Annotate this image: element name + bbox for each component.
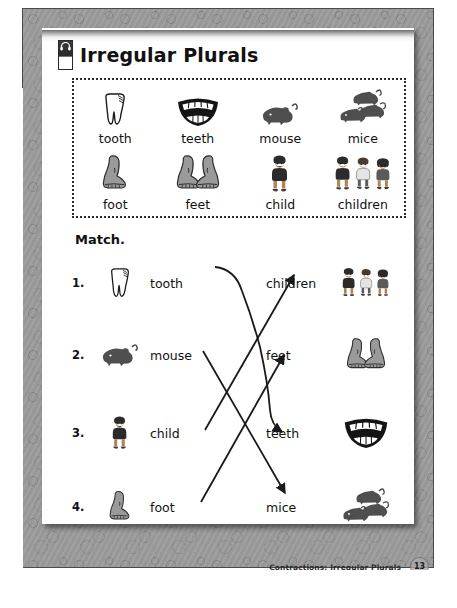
match-right-word[interactable]: mice [266, 500, 326, 515]
match-exercise: 1. tooth children [72, 255, 406, 520]
word-bank-label: tooth [99, 131, 132, 146]
teeth-icon [326, 416, 406, 450]
teeth-icon [176, 88, 220, 128]
match-right-word[interactable]: feet [266, 348, 326, 363]
instruction-label: Match. [75, 232, 125, 247]
mouse-icon [259, 88, 301, 128]
child-icon [268, 154, 292, 194]
worksheet-page: Irregular Plurals tooth [0, 0, 457, 608]
match-left-word[interactable]: mouse [146, 348, 212, 363]
tooth-icon [94, 267, 146, 300]
item-number: 1. [72, 276, 94, 290]
word-bank-label: feet [185, 197, 210, 212]
match-left-word[interactable]: child [146, 426, 212, 441]
mouse-icon [94, 341, 146, 369]
mice-icon [338, 88, 388, 128]
word-bank-label: children [338, 197, 388, 212]
mice-icon [326, 487, 406, 527]
word-bank-label: teeth [181, 131, 214, 146]
match-row: 4. foot mice [72, 479, 406, 535]
word-bank-label: mice [348, 131, 378, 146]
item-number: 2. [72, 348, 94, 362]
word-bank-item-tooth: tooth [74, 84, 157, 146]
word-bank-row: foot [74, 150, 404, 212]
match-left-word[interactable]: foot [146, 500, 212, 515]
word-bank-item-teeth: teeth [157, 84, 240, 146]
match-row: 1. tooth children [72, 255, 406, 311]
title-gradient-bar [42, 30, 414, 42]
word-bank-item-child: child [239, 150, 322, 212]
match-right-word[interactable]: children [266, 276, 326, 291]
tooth-icon [102, 88, 128, 128]
match-left-word[interactable]: tooth [146, 276, 212, 291]
word-bank-label: foot [103, 197, 128, 212]
page-margin-bottom [0, 570, 457, 608]
word-bank-item-feet: feet [157, 150, 240, 212]
item-number: 4. [72, 500, 94, 514]
page-margin-left [0, 88, 23, 608]
word-bank-label: child [265, 197, 295, 212]
page-margin-right [434, 0, 457, 608]
item-number: 3. [72, 426, 94, 440]
page-title: Irregular Plurals [80, 44, 259, 66]
match-row: 2. mouse feet [72, 327, 406, 383]
word-bank-row: tooth teeth [74, 84, 404, 146]
page-margin-top [0, 0, 457, 8]
children-icon [332, 154, 394, 194]
word-bank-label: mouse [259, 131, 301, 146]
headphones-icon [58, 40, 73, 70]
match-right-word[interactable]: teeth [266, 426, 326, 441]
word-bank: tooth teeth [72, 78, 406, 218]
feet-icon [326, 337, 406, 373]
feet-icon [174, 154, 222, 194]
word-bank-item-mice: mice [322, 84, 405, 146]
foot-icon [94, 490, 146, 524]
word-bank-item-children: children [322, 150, 405, 212]
word-bank-item-mouse: mouse [239, 84, 322, 146]
children-icon [326, 266, 406, 300]
match-row: 3. child teeth [72, 405, 406, 461]
word-bank-item-foot: foot [74, 150, 157, 212]
child-icon [94, 415, 146, 451]
foot-icon [100, 154, 130, 194]
